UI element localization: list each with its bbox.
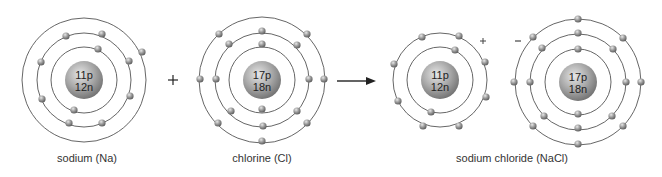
electron bbox=[540, 112, 547, 119]
neutron-count: 18n bbox=[253, 81, 271, 93]
electron bbox=[526, 78, 533, 85]
electron bbox=[609, 45, 616, 52]
proton-count: 11p bbox=[431, 69, 449, 81]
electron bbox=[455, 122, 462, 129]
electron bbox=[637, 78, 644, 85]
electron bbox=[574, 124, 581, 131]
electron bbox=[574, 140, 581, 147]
electron bbox=[529, 33, 536, 40]
label-sodium-chloride: sodium chloride (NaCl) bbox=[456, 152, 568, 164]
atoms-layer: 11p12n17p18n11p12n17p18n bbox=[22, 15, 645, 147]
electron bbox=[529, 122, 536, 129]
electron bbox=[259, 122, 266, 129]
label-chlorine: chlorine (Cl) bbox=[232, 152, 291, 164]
electron bbox=[418, 33, 425, 40]
electron bbox=[215, 30, 222, 37]
electron bbox=[574, 29, 581, 36]
electron bbox=[293, 107, 300, 114]
electron bbox=[98, 30, 105, 37]
reaction-arrow bbox=[337, 77, 376, 85]
electron bbox=[196, 75, 203, 82]
ionic-bond-diagram: 11p12n17p18n11p12n17p18n bbox=[0, 0, 662, 177]
electron bbox=[510, 78, 517, 85]
electron bbox=[258, 27, 265, 34]
electron bbox=[619, 122, 626, 129]
electron bbox=[482, 93, 489, 100]
neutron-count: 12n bbox=[75, 81, 93, 93]
electron bbox=[94, 45, 101, 52]
electron bbox=[427, 108, 434, 115]
electron bbox=[62, 32, 69, 39]
neutron-count: 18n bbox=[569, 83, 587, 95]
proton-count: 17p bbox=[569, 71, 587, 83]
electron bbox=[138, 48, 145, 55]
electron bbox=[70, 106, 77, 113]
electron bbox=[303, 119, 310, 126]
electron bbox=[574, 110, 581, 117]
electron bbox=[608, 112, 615, 119]
electron bbox=[258, 40, 265, 47]
neutron-count: 12n bbox=[431, 81, 449, 93]
electron bbox=[126, 92, 133, 99]
electron bbox=[390, 60, 397, 67]
electron bbox=[258, 105, 265, 112]
electron bbox=[98, 119, 105, 126]
electron bbox=[38, 95, 45, 102]
electron bbox=[305, 75, 312, 82]
electron bbox=[293, 41, 300, 48]
electron bbox=[320, 75, 327, 82]
electron bbox=[574, 45, 581, 52]
electron bbox=[451, 46, 458, 53]
electron bbox=[65, 119, 72, 126]
proton-count: 17p bbox=[253, 69, 271, 81]
electron bbox=[225, 40, 232, 47]
plus-operator bbox=[168, 75, 178, 85]
electron bbox=[619, 34, 626, 41]
electron bbox=[574, 15, 581, 22]
label-sodium: sodium (Na) bbox=[57, 152, 117, 164]
atom-chlorine: 17p18n bbox=[196, 17, 327, 145]
electron bbox=[538, 44, 545, 51]
positive-charge-icon bbox=[480, 38, 486, 44]
atom-sodium-ion: 11p12n bbox=[390, 32, 489, 129]
electron bbox=[622, 78, 629, 85]
electron bbox=[227, 107, 234, 114]
electron bbox=[394, 97, 401, 104]
proton-count: 11p bbox=[75, 69, 93, 81]
electron bbox=[455, 32, 462, 39]
electron bbox=[303, 30, 310, 37]
electron bbox=[419, 122, 426, 129]
atom-chloride-ion: 17p18n bbox=[510, 15, 644, 147]
atom-sodium: 11p12n bbox=[22, 18, 146, 142]
electron bbox=[212, 75, 219, 82]
electron bbox=[125, 57, 132, 64]
electron bbox=[214, 119, 221, 126]
electron bbox=[481, 58, 488, 65]
electron bbox=[37, 58, 44, 65]
electron bbox=[258, 137, 265, 144]
